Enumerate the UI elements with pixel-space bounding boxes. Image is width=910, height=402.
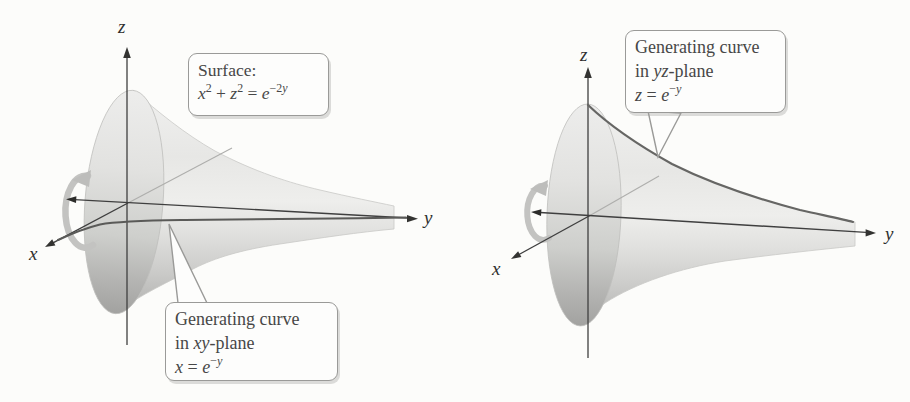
left-curve-callout-line1: Generating curve (175, 308, 328, 332)
right-z-axis-label: z (580, 45, 587, 64)
surface-equation: x2 + z2 = e−2y (198, 82, 319, 105)
right-x-axis-label: x (492, 259, 500, 278)
right-surface-horn (581, 105, 855, 326)
left-z-axis-arrowhead (123, 47, 131, 58)
right-z-axis-arrowhead (584, 67, 592, 78)
right-y-axis-arrowhead (866, 229, 876, 236)
left-y-axis-label: y (424, 208, 432, 227)
left-z-axis-label: z (118, 17, 125, 36)
left-curve-equation: x = e−y (175, 356, 328, 380)
figure: z x y z x y Surface: x2 + z2 = e−2y Gene… (0, 0, 910, 402)
left-curve-callout-line2: in xy-plane (175, 332, 328, 356)
right-rotation-arrow-icon (527, 180, 549, 240)
right-generating-curve-callout: Generating curve in yz-plane z = e−y (625, 30, 786, 113)
left-x-axis-label: x (29, 244, 37, 263)
right-curve-callout-line1: Generating curve (635, 36, 776, 60)
right-x-axis-arrowhead (511, 251, 521, 259)
right-curve-equation: z = e−y (635, 84, 776, 108)
right-y-axis-negative-arrowhead (531, 209, 541, 216)
right-callout-tail (648, 111, 681, 157)
surface-callout-title: Surface: (198, 59, 319, 82)
surface-equation-callout: Surface: x2 + z2 = e−2y (188, 53, 329, 116)
left-generating-curve-callout: Generating curve in xy-plane x = e−y (165, 302, 338, 381)
left-x-axis-arrowhead (45, 239, 55, 247)
right-curve-callout-line2: in yz-plane (635, 60, 776, 84)
right-y-axis-label: y (885, 224, 893, 243)
left-y-axis-arrowhead (407, 215, 418, 222)
